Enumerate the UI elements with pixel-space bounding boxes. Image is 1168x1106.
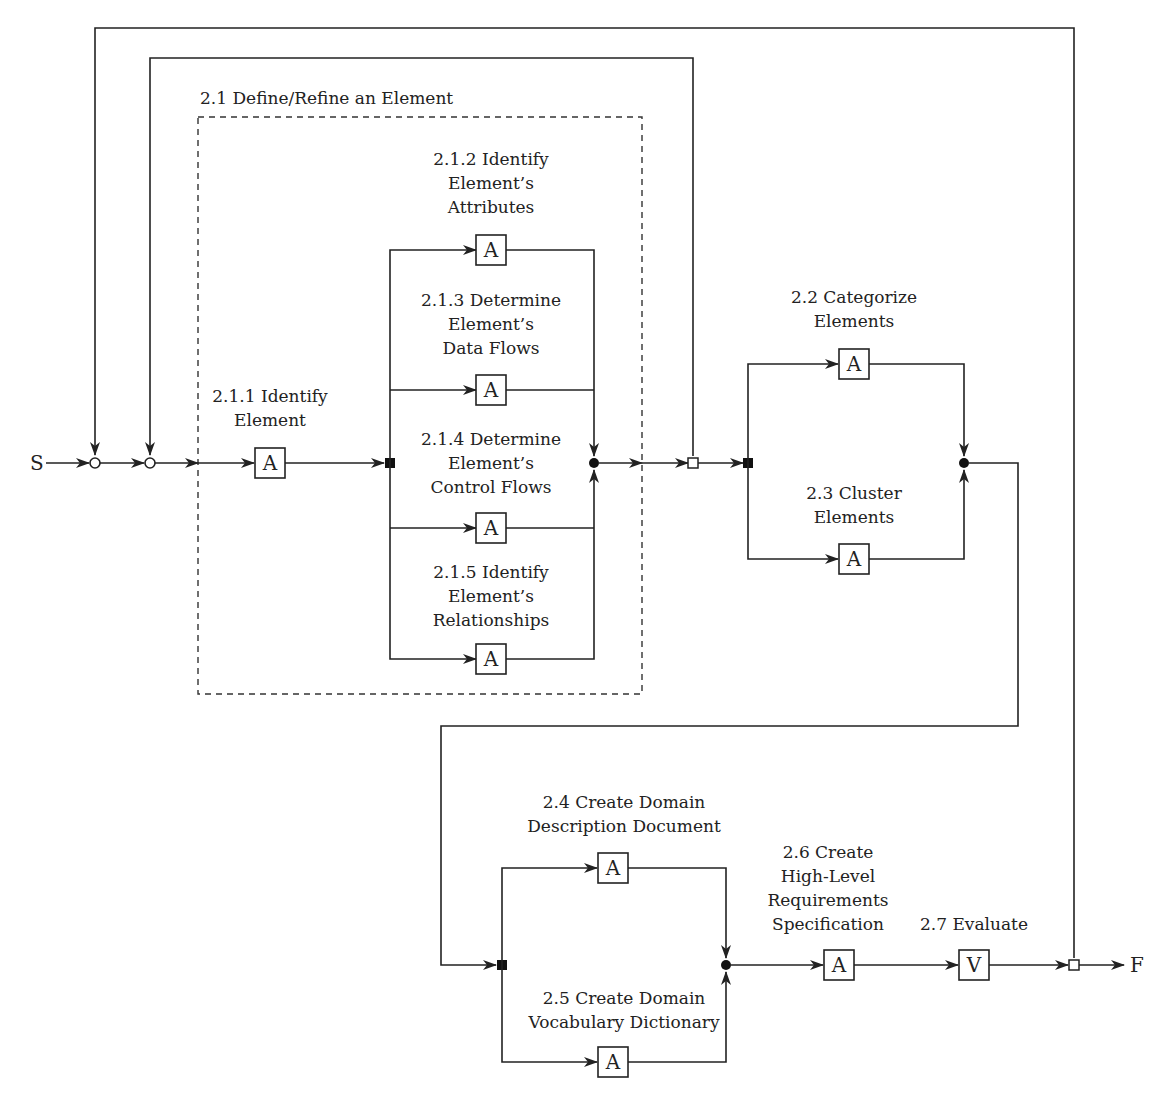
svg-text:Elements: Elements (814, 507, 895, 527)
svg-text:A: A (846, 352, 862, 376)
start-label: S (30, 451, 44, 475)
svg-text:Description Document: Description Document (527, 816, 721, 836)
svg-text:Elements: Elements (814, 311, 895, 331)
svg-text:Control Flows: Control Flows (431, 477, 552, 497)
task-2-3: A 2.3 Cluster Elements (806, 483, 902, 574)
task-2-4: A 2.4 Create Domain Description Document (527, 792, 721, 883)
svg-text:V: V (966, 953, 982, 977)
svg-text:2.1.4 Determine: 2.1.4 Determine (421, 429, 561, 449)
decision-node-2-1 (688, 458, 698, 468)
svg-text:Attributes: Attributes (447, 197, 535, 217)
svg-text:2.7 Evaluate: 2.7 Evaluate (920, 914, 1028, 934)
svg-text:A: A (605, 856, 621, 880)
svg-text:Requirements: Requirements (767, 890, 888, 910)
svg-text:A: A (831, 953, 847, 977)
task-2-5: A 2.5 Create Domain Vocabulary Dictionar… (527, 988, 719, 1077)
svg-text:A: A (483, 516, 499, 540)
svg-text:A: A (605, 1050, 621, 1074)
join-node-2-2 (959, 458, 969, 468)
svg-text:Element’s: Element’s (448, 586, 534, 606)
svg-text:2.1.2 Identify: 2.1.2 Identify (433, 149, 549, 169)
task-2-7: V 2.7 Evaluate (920, 914, 1028, 980)
task-2-1-3: A 2.1.3 Determine Element’s Data Flows (421, 290, 561, 405)
svg-text:A: A (262, 451, 278, 475)
process-diagram: 2.1 Define/Refine an Element S A 2.1.1 I… (0, 0, 1168, 1106)
join-node-2-4 (721, 960, 731, 970)
svg-text:Data Flows: Data Flows (443, 338, 540, 358)
svg-text:Vocabulary Dictionary: Vocabulary Dictionary (527, 1012, 719, 1032)
svg-text:2.1.5 Identify: 2.1.5 Identify (433, 562, 549, 582)
svg-text:A: A (846, 547, 862, 571)
svg-text:A: A (483, 647, 499, 671)
finish-label: F (1130, 953, 1144, 977)
task-2-6: A 2.6 Create High-Level Requirements Spe… (767, 842, 888, 980)
task-2-1-5: A 2.1.5 Identify Element’s Relationships (433, 562, 550, 674)
task-2-1-4: A 2.1.4 Determine Element’s Control Flow… (421, 429, 561, 543)
svg-text:2.1.1 Identify: 2.1.1 Identify (212, 386, 328, 406)
decision-node-2-7 (1069, 960, 1079, 970)
merge-node-inner (145, 458, 155, 468)
join-node-2-1 (589, 458, 599, 468)
svg-text:Element’s: Element’s (448, 314, 534, 334)
merge-node-outer (90, 458, 100, 468)
svg-text:Element: Element (234, 410, 306, 430)
task-2-1-1: A 2.1.1 Identify Element (212, 386, 328, 478)
svg-text:Relationships: Relationships (433, 610, 550, 630)
svg-text:A: A (483, 378, 499, 402)
task-2-2: A 2.2 Categorize Elements (791, 287, 917, 379)
svg-text:2.6 Create: 2.6 Create (783, 842, 874, 862)
group-2-1-label: 2.1 Define/Refine an Element (200, 88, 453, 108)
svg-text:2.2 Categorize: 2.2 Categorize (791, 287, 917, 307)
svg-text:Element’s: Element’s (448, 453, 534, 473)
svg-text:2.3 Cluster: 2.3 Cluster (806, 483, 902, 503)
svg-text:A: A (483, 238, 499, 262)
svg-text:2.4 Create Domain: 2.4 Create Domain (543, 792, 706, 812)
svg-text:Specification: Specification (772, 914, 884, 934)
svg-text:Element’s: Element’s (448, 173, 534, 193)
task-2-1-2: A 2.1.2 Identify Element’s Attributes (433, 149, 549, 265)
svg-text:2.1.3 Determine: 2.1.3 Determine (421, 290, 561, 310)
svg-text:2.5 Create Domain: 2.5 Create Domain (543, 988, 706, 1008)
svg-text:High-Level: High-Level (781, 866, 875, 886)
